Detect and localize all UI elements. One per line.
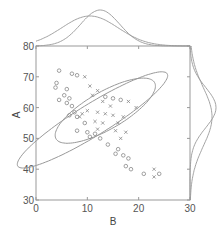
data-point-circle [57, 69, 61, 73]
data-points [54, 69, 161, 179]
x-tick-label: 10 [82, 203, 94, 214]
data-point-circle [83, 121, 87, 125]
data-point-cross [111, 114, 114, 117]
data-point-cross [86, 109, 89, 112]
data-point-cross [114, 129, 117, 132]
data-point-circle [62, 93, 66, 97]
density-x-cross [36, 10, 190, 46]
data-point-cross [124, 131, 127, 134]
data-point-cross [119, 137, 122, 140]
data-point-cross [88, 84, 91, 87]
data-point-cross [127, 100, 130, 103]
marginal-density-right [190, 46, 216, 200]
x-tick-label: 30 [184, 203, 196, 214]
density-x-circle [36, 16, 190, 46]
data-point-cross [152, 175, 155, 178]
density-y-cross [190, 46, 216, 200]
data-point-circle [119, 98, 123, 102]
data-point-cross [83, 75, 86, 78]
data-point-circle [111, 97, 115, 101]
x-tick-label: 20 [133, 203, 145, 214]
y-tick-label: 50 [23, 133, 35, 144]
data-point-cross [122, 115, 125, 118]
data-point-circle [75, 129, 79, 133]
y-tick-label: 60 [23, 103, 35, 114]
data-point-circle [86, 130, 90, 134]
y-axis-label: A [11, 111, 22, 118]
data-point-circle [70, 72, 74, 76]
data-point-cross [109, 104, 112, 107]
y-tick-label: 40 [23, 164, 35, 175]
data-point-cross [152, 168, 155, 171]
marginal-density-top [36, 10, 190, 46]
data-point-circle [104, 95, 108, 99]
data-point-circle [142, 172, 146, 176]
data-point-circle [124, 164, 128, 168]
data-point-circle [98, 137, 102, 141]
confidence-ellipses [17, 72, 167, 168]
data-point-cross [104, 112, 107, 115]
data-point-circle [121, 154, 125, 158]
data-point-cross [81, 112, 84, 115]
data-point-cross [101, 100, 104, 103]
data-point-circle [106, 143, 110, 147]
data-point-circle [129, 167, 133, 171]
data-point-cross [96, 111, 99, 114]
data-point-circle [75, 73, 79, 77]
data-point-cross [96, 89, 99, 92]
data-point-circle [54, 86, 58, 90]
data-point-circle [114, 152, 118, 156]
data-point-circle [116, 147, 120, 151]
x-axis-label: B [110, 216, 117, 227]
data-point-cross [101, 121, 104, 124]
data-point-cross [96, 128, 99, 131]
y-tick-label: 30 [23, 195, 35, 206]
data-point-circle [157, 172, 161, 176]
y-tick-label: 80 [23, 41, 35, 52]
data-point-circle [70, 104, 74, 108]
data-point-circle [55, 81, 59, 85]
y-tick-label: 70 [23, 72, 35, 83]
data-point-circle [68, 97, 72, 101]
scatter-chart: 0102030304050607080 B A [0, 0, 224, 233]
data-point-circle [127, 157, 131, 161]
x-tick-label: 0 [33, 203, 39, 214]
data-point-circle [93, 132, 97, 136]
ellipse-cross [55, 78, 155, 143]
ellipse-circle [17, 72, 167, 168]
data-point-circle [57, 98, 61, 102]
data-point-cross [93, 120, 96, 123]
data-point-circle [65, 87, 69, 91]
data-point-circle [65, 101, 69, 105]
